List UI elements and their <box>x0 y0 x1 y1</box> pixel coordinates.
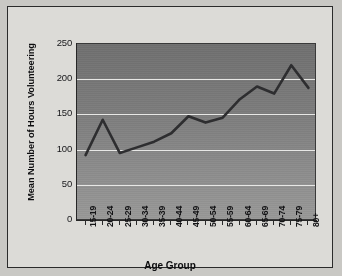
x-tick-65-69 <box>256 220 257 225</box>
x-tick-40-44 <box>170 220 171 225</box>
x-tick-60-64 <box>239 220 240 225</box>
x-tick-70-74 <box>273 220 274 225</box>
chart-frame: 250 200 150 100 50 0 Mean Number of Hour… <box>7 6 333 268</box>
x-tick-label-50-54: 50-54 <box>208 206 218 227</box>
x-tick-label-80+: 80+ <box>311 213 321 227</box>
plot-area <box>76 43 316 220</box>
x-tick-label-15-19: 15-19 <box>88 206 98 227</box>
x-tick-25-29 <box>119 220 120 225</box>
x-tick-45-49 <box>187 220 188 225</box>
x-tick-label-65-69: 65-69 <box>260 206 270 227</box>
y-tick-150: 150 <box>42 107 72 118</box>
x-tick-30-34 <box>136 220 137 225</box>
x-tick-label-35-39: 35-39 <box>157 206 167 227</box>
y-tick-0: 0 <box>42 213 72 224</box>
x-tick-label-30-34: 30-34 <box>140 206 150 227</box>
x-tick-label-20-24: 20-24 <box>105 206 115 227</box>
x-tick-label-40-44: 40-44 <box>174 206 184 227</box>
data-series-line <box>77 44 316 220</box>
chart-screenshot: 250 200 150 100 50 0 Mean Number of Hour… <box>0 0 342 276</box>
x-tick-55-59 <box>222 220 223 225</box>
x-tick-label-55-59: 55-59 <box>225 206 235 227</box>
y-axis-line <box>76 43 77 221</box>
x-tick-label-25-29: 25-29 <box>123 206 133 227</box>
y-axis-title: Mean Number of Hours Volunteering <box>26 37 36 207</box>
x-tick-50-54 <box>205 220 206 225</box>
x-tick-75-79 <box>290 220 291 225</box>
x-tick-35-39 <box>153 220 154 225</box>
x-tick-20-24 <box>102 220 103 225</box>
y-tick-100: 100 <box>42 143 72 154</box>
x-tick-80+ <box>307 220 308 225</box>
y-tick-200: 200 <box>42 72 72 83</box>
x-tick-label-60-64: 60-64 <box>243 206 253 227</box>
y-tick-250: 250 <box>42 37 72 48</box>
x-tick-label-45-49: 45-49 <box>191 206 201 227</box>
x-axis-title: Age Group <box>8 260 332 271</box>
y-axis-tick-labels: 250 200 150 100 50 0 <box>42 7 72 276</box>
y-tick-50: 50 <box>42 178 72 189</box>
x-tick-15-19 <box>85 220 86 225</box>
x-tick-label-75-79: 75-79 <box>294 206 304 227</box>
x-tick-label-70-74: 70-74 <box>277 206 287 227</box>
